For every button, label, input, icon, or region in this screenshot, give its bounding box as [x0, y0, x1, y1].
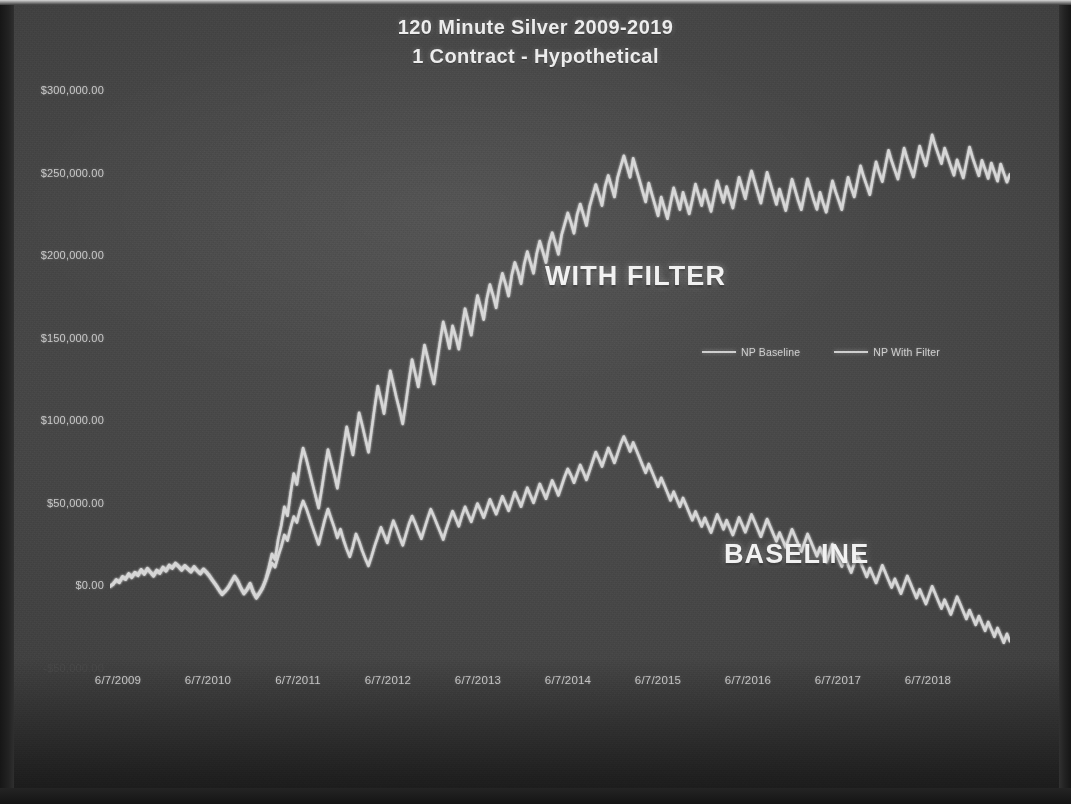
chart-title-block: 120 Minute Silver 2009-2019 1 Contract -…: [12, 13, 1059, 71]
series-group: [110, 135, 1010, 643]
x-tick-label: 6/7/2016: [725, 674, 771, 686]
y-tick-label: -$50,000.00: [14, 662, 110, 674]
x-tick-label: 6/7/2013: [455, 674, 501, 686]
legend-line-swatch-icon: [702, 351, 736, 354]
frame-edge-right: [1059, 0, 1071, 804]
x-tick-label: 6/7/2011: [275, 674, 321, 686]
frame-edge-bottom: [0, 788, 1071, 804]
y-tick-label: $150,000.00: [14, 332, 110, 344]
legend-label-np-with-filter: NP With Filter: [873, 346, 940, 358]
legend-entry-np-with-filter: NP With Filter: [834, 346, 940, 358]
chart-legend: NP Baseline NP With Filter: [702, 346, 940, 358]
x-tick-label: 6/7/2010: [185, 674, 231, 686]
chart-subtitle: 1 Contract - Hypothetical: [12, 42, 1059, 71]
x-tick-label: 6/7/2012: [365, 674, 411, 686]
plot-area: [110, 91, 1010, 669]
y-tick-label: $200,000.00: [14, 249, 110, 261]
x-tick-label: 6/7/2009: [95, 674, 141, 686]
bottom-shadow-band: [12, 658, 1059, 788]
x-tick-label: 6/7/2017: [815, 674, 861, 686]
chart-plate: 120 Minute Silver 2009-2019 1 Contract -…: [12, 5, 1059, 788]
legend-label-np-baseline: NP Baseline: [741, 346, 800, 358]
y-tick-label: $250,000.00: [14, 167, 110, 179]
photo-frame: 120 Minute Silver 2009-2019 1 Contract -…: [0, 0, 1071, 804]
frame-edge-top: [0, 0, 1071, 5]
series-line-np-with-filter: [110, 135, 1010, 598]
legend-entry-np-baseline: NP Baseline: [702, 346, 800, 358]
x-tick-label: 6/7/2015: [635, 674, 681, 686]
y-tick-label: $100,000.00: [14, 414, 110, 426]
annotation-with-filter: WITH FILTER: [545, 261, 726, 292]
plot-svg: [110, 91, 1010, 669]
annotation-baseline: BASELINE: [724, 539, 869, 570]
legend-line-swatch-icon: [834, 351, 868, 354]
x-tick-label: 6/7/2018: [905, 674, 951, 686]
y-tick-label: $300,000.00: [14, 84, 110, 96]
y-tick-label: $50,000.00: [14, 497, 110, 509]
chart-title: 120 Minute Silver 2009-2019: [12, 13, 1059, 42]
y-tick-label: $0.00: [14, 579, 110, 591]
frame-edge-left: [0, 0, 14, 804]
y-axis: $300,000.00$250,000.00$200,000.00$150,00…: [12, 5, 110, 788]
x-tick-label: 6/7/2014: [545, 674, 591, 686]
series-line-np-baseline: [110, 436, 1010, 642]
